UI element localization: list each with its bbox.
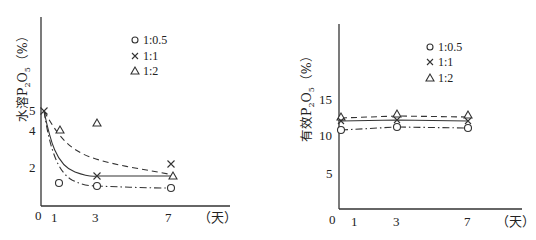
legend-triangle-icon (426, 74, 434, 81)
right-chart: 有效P2O5（%） 15 10 5 0 1 3 7 （天） (299, 24, 535, 229)
left-x-unit-label: （天） (198, 210, 237, 225)
right-markers-1-0-5 (338, 124, 472, 134)
right-y-tick-15: 15 (319, 92, 332, 107)
figure: 水溶P2O5（%） 5 4 2 0 1 3 7 （天） (0, 0, 536, 240)
left-x-tick-1: 1 (51, 210, 58, 225)
left-legend-label-1-0-5: 1:0.5 (143, 33, 167, 47)
left-chart: 水溶P2O5（%） 5 4 2 0 1 3 7 （天） (15, 17, 237, 225)
right-legend-label-1-2: 1:2 (438, 71, 453, 85)
left-legend: 1:0.5 1:1 1:2 (131, 33, 167, 78)
left-legend-label-1-2: 1:2 (143, 64, 158, 78)
left-y-tick-5: 5 (29, 103, 36, 118)
right-curve-1-1 (341, 120, 468, 121)
right-y-tick-5: 5 (326, 166, 333, 181)
left-markers-1-2 (56, 119, 177, 179)
left-x-tick-3: 3 (92, 210, 99, 225)
right-x-unit-label: （天） (496, 214, 535, 229)
legend-cross-icon (132, 53, 138, 59)
right-legend-label-1-0-5: 1:0.5 (438, 40, 462, 54)
right-x-tick-3: 3 (393, 214, 400, 229)
left-x-tick-0: 0 (35, 208, 42, 223)
right-legend: 1:0.5 1:1 1:2 (426, 40, 462, 85)
legend-circle-icon (132, 37, 138, 43)
right-curve-1-0-5 (341, 127, 468, 130)
legend-cross-icon (427, 59, 433, 65)
left-curve-1-1 (44, 111, 175, 176)
right-x-tick-7: 7 (464, 214, 471, 229)
legend-triangle-icon (131, 67, 139, 74)
right-y-axis-label: 有效P2O5（%） (299, 49, 316, 142)
right-markers-1-2 (337, 110, 472, 120)
legend-circle-icon (427, 44, 433, 50)
right-curve-1-2 (341, 116, 468, 118)
right-legend-label-1-1: 1:1 (438, 55, 453, 69)
left-legend-label-1-1: 1:1 (143, 49, 158, 63)
left-markers-1-0-5 (56, 180, 175, 192)
left-x-tick-7: 7 (165, 210, 172, 225)
right-y-tick-10: 10 (319, 128, 332, 143)
left-y-tick-2: 2 (29, 160, 36, 175)
right-x-tick-0: 0 (329, 212, 336, 227)
left-y-tick-4: 4 (29, 123, 36, 138)
right-x-tick-1: 1 (351, 214, 358, 229)
left-curve-1-2 (44, 111, 173, 175)
